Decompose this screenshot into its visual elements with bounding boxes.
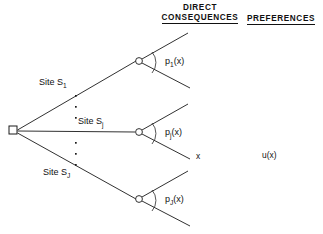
branch-label-site-1-text: Site S xyxy=(39,77,63,87)
header-direct-consequences-line2: CONSEQUENCES xyxy=(162,13,239,24)
probability-label-1-arg: (x) xyxy=(174,56,185,66)
header-direct-consequences: DIRECT CONSEQUENCES xyxy=(157,3,243,24)
consequence-line-J-lower[interactable] xyxy=(142,201,190,226)
probability-label-j: pj(x) xyxy=(165,128,182,137)
branch-label-site-1: Site S1 xyxy=(39,78,67,87)
header-direct-consequences-line1: DIRECT xyxy=(157,3,243,12)
branch-line-site-1[interactable] xyxy=(18,61,137,130)
probability-label-1: p1(x) xyxy=(165,57,184,66)
branch-label-site-1-subscript: 1 xyxy=(63,82,67,89)
chance-node-circle-J[interactable] xyxy=(136,196,143,203)
probability-label-j-arg: (x) xyxy=(171,127,182,137)
branch-label-site-J: Site SJ xyxy=(43,168,70,177)
chance-node-circle-1[interactable] xyxy=(136,58,143,65)
branch-label-site-j-text: Site S xyxy=(78,116,102,126)
outcome-label-x: x xyxy=(196,152,200,160)
probability-label-J-subscript: J xyxy=(170,199,173,206)
chance-node-circle-j[interactable] xyxy=(136,129,143,136)
decision-tree-figure: DIRECT CONSEQUENCES PREFERENCES Site S1 … xyxy=(0,0,323,234)
probability-label-J-arg: (x) xyxy=(173,194,184,204)
consequence-line-j-lower[interactable] xyxy=(142,134,190,159)
ellipsis-dot-upper-1 xyxy=(75,95,77,97)
branch-label-site-J-text: Site S xyxy=(43,167,67,177)
header-preferences-label: PREFERENCES xyxy=(247,14,315,25)
ellipsis-dot-upper-3 xyxy=(75,117,77,119)
decision-tree-svg xyxy=(0,0,323,234)
ellipsis-dot-upper-2 xyxy=(75,106,77,108)
probability-label-1-subscript: 1 xyxy=(170,61,174,68)
branch-label-site-j: Site Sj xyxy=(78,117,103,126)
branch-line-site-J[interactable] xyxy=(18,133,137,199)
branch-label-site-J-subscript: J xyxy=(67,172,70,179)
ellipsis-dot-lower-1 xyxy=(75,142,77,144)
ellipsis-dot-lower-3 xyxy=(75,164,77,166)
utility-label-ux: u(x) xyxy=(262,151,276,159)
probability-label-J: pJ(x) xyxy=(165,195,184,204)
consequence-line-1-lower[interactable] xyxy=(142,63,190,88)
ellipsis-dot-lower-2 xyxy=(75,153,77,155)
decision-node-square[interactable] xyxy=(9,126,17,134)
header-preferences: PREFERENCES xyxy=(243,14,319,25)
branch-line-site-j[interactable] xyxy=(18,131,136,132)
